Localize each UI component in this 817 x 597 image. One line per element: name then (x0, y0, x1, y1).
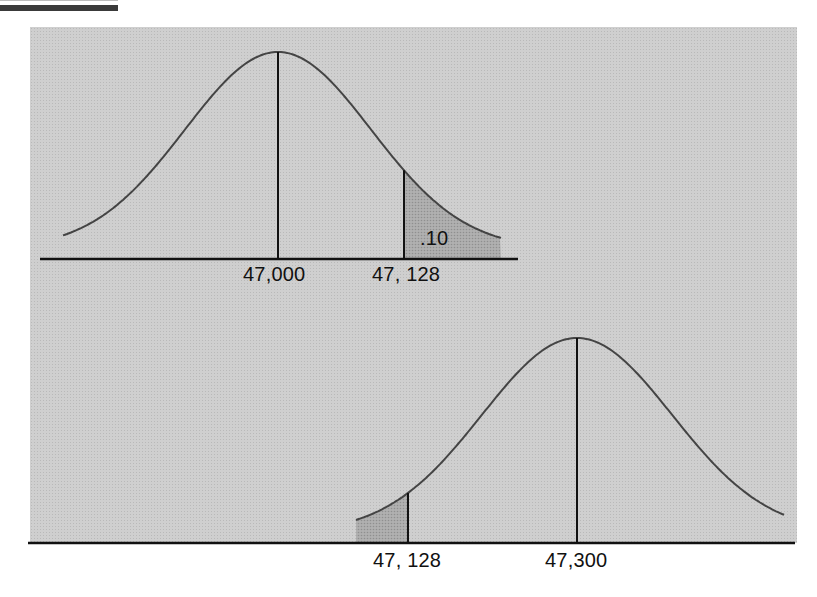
distribution-charts (0, 0, 817, 597)
bottom-distribution (28, 338, 795, 543)
bottom-normal-curve (356, 338, 784, 520)
top-mean-label: 47,000 (243, 263, 305, 286)
top-critical-label: 47, 128 (372, 263, 440, 286)
bottom-mean-label: 47,300 (545, 549, 607, 572)
top-area-label: .10 (420, 227, 448, 250)
bottom-critical-label: 47, 128 (373, 549, 441, 572)
